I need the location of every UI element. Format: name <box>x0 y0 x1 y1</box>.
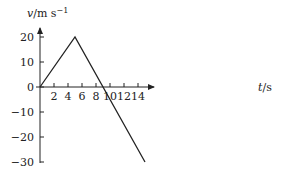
velocity-time-chart: 246810121420100−10−20−30 v/m s−1 t/s <box>0 0 287 176</box>
y-tick-label: −10 <box>11 106 34 119</box>
x-tick-label: 12 <box>117 90 131 103</box>
y-tick-label: −30 <box>11 156 34 169</box>
y-axis-title: v/m s−1 <box>27 6 68 20</box>
x-axis-title: t/s <box>258 81 272 94</box>
x-tick-label: 8 <box>93 90 100 103</box>
y-tick-label: 0 <box>27 81 34 94</box>
x-tick-label: 6 <box>79 90 86 103</box>
y-tick-label: 10 <box>20 56 34 69</box>
y-tick-label: 20 <box>20 31 34 44</box>
x-tick-label: 2 <box>51 90 58 103</box>
x-tick-label: 4 <box>65 90 72 103</box>
y-tick-label: −20 <box>11 131 34 144</box>
x-tick-label: 14 <box>131 90 145 103</box>
